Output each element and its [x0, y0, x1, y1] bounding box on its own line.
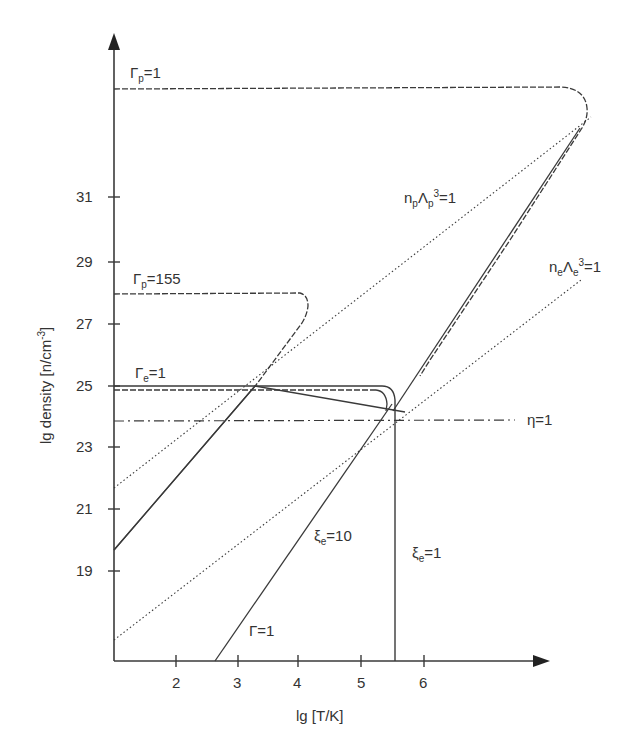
phase-diagram: [0, 0, 640, 754]
y-tick-label: 31: [76, 188, 93, 205]
y-tick-label: 21: [76, 500, 93, 517]
curve-gamma-1: [114, 386, 405, 550]
y-tick-label: 27: [76, 315, 93, 332]
label-np-lambda-p: npΛp3=1: [404, 188, 456, 209]
x-tick-label: 6: [419, 674, 427, 691]
y-tick-label: 19: [76, 562, 93, 579]
x-tick-label: 5: [357, 674, 365, 691]
curve-xi-e-10-diagonal: [215, 404, 392, 661]
y-axis-arrow-icon: [108, 33, 120, 50]
label-gamma-1: Γ=1: [249, 622, 274, 639]
label-eta-1: η=1: [527, 411, 552, 428]
x-tick-label: 2: [172, 674, 180, 691]
curve-gamma-e-1: [114, 386, 395, 661]
label-gamma-e-1: Γe=1: [135, 364, 166, 384]
y-axis-title: lg density [n/cm-3]: [36, 327, 54, 444]
label-gamma-p-1: Γp=1: [130, 64, 161, 84]
label-xi-e-10: ξe=10: [314, 527, 352, 547]
curve-gamma-p-1: [114, 87, 587, 376]
x-axis-arrow-icon: [533, 655, 550, 667]
label-ne-lambda-e: neΛe3=1: [549, 257, 601, 278]
y-tick-label: 29: [76, 253, 93, 270]
x-tick-label: 4: [293, 674, 301, 691]
x-axis-title: lg [T/K]: [296, 707, 344, 724]
curve-eta-1: [114, 420, 515, 421]
curve-gamma-p-155-lower: [114, 385, 256, 550]
y-tick-label: 23: [76, 438, 93, 455]
x-tick-label: 3: [233, 674, 241, 691]
curve-np-lambda-p: [114, 117, 591, 488]
curve-ne-lambda-e: [114, 280, 581, 640]
label-xi-e-1: ξe=1: [412, 544, 441, 564]
y-tick-label: 25: [76, 377, 93, 394]
label-gamma-p-155: Γp=155: [133, 270, 181, 290]
